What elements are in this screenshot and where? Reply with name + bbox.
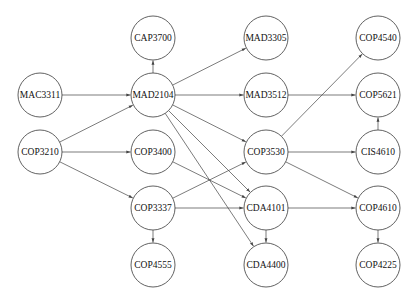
node-cop4540: COP4540 [356, 16, 400, 60]
node-cop4555: COP4555 [131, 243, 175, 287]
node-label: MAC3311 [20, 90, 61, 100]
nodes-layer: CAP3700MAC3311MAD2104MAD3305MAD3512COP45… [18, 16, 400, 287]
edge-cop3210-to-cop3337 [60, 162, 133, 198]
node-cop3400: COP3400 [131, 130, 175, 174]
node-label: COP3210 [21, 147, 59, 157]
node-cda4101: CDA4101 [244, 186, 288, 230]
node-label: COP3400 [134, 147, 172, 157]
prerequisite-graph: CAP3700MAC3311MAD2104MAD3305MAD3512COP45… [0, 0, 416, 300]
node-cop5621: COP5621 [356, 73, 400, 117]
node-label: COP5621 [359, 90, 397, 100]
node-cop3530: COP3530 [244, 130, 288, 174]
node-label: CIS4610 [361, 147, 395, 157]
edge-cop3530-to-cop4610 [286, 162, 358, 198]
edges-layer [60, 48, 378, 246]
node-label: MAD3512 [245, 90, 286, 100]
node-cap3700: CAP3700 [131, 16, 175, 60]
node-cop4610: COP4610 [356, 186, 400, 230]
node-mad3305: MAD3305 [244, 16, 288, 60]
node-label: CDA4400 [246, 260, 285, 270]
node-label: COP3337 [134, 203, 172, 213]
node-label: MAD2104 [132, 90, 173, 100]
node-label: CDA4101 [246, 203, 285, 213]
node-cda4400: CDA4400 [244, 243, 288, 287]
edge-mad2104-to-mad3305 [173, 48, 246, 85]
node-cop4225: COP4225 [356, 243, 400, 287]
node-cop3337: COP3337 [131, 186, 175, 230]
node-label: COP4540 [359, 33, 397, 43]
node-cop3210: COP3210 [18, 130, 62, 174]
node-mad3512: MAD3512 [244, 73, 288, 117]
node-mad2104: MAD2104 [131, 73, 175, 117]
node-label: COP4610 [359, 203, 397, 213]
edge-mad2104-to-cop3530 [173, 105, 246, 142]
node-label: COP4225 [359, 260, 397, 270]
node-cis4610: CIS4610 [356, 130, 400, 174]
edge-cop3210-to-mad2104 [60, 105, 133, 142]
node-label: MAD3305 [245, 33, 286, 43]
node-label: CAP3700 [134, 33, 172, 43]
node-label: COP4555 [134, 260, 172, 270]
node-label: COP3530 [247, 147, 285, 157]
node-mac3311: MAC3311 [18, 73, 62, 117]
